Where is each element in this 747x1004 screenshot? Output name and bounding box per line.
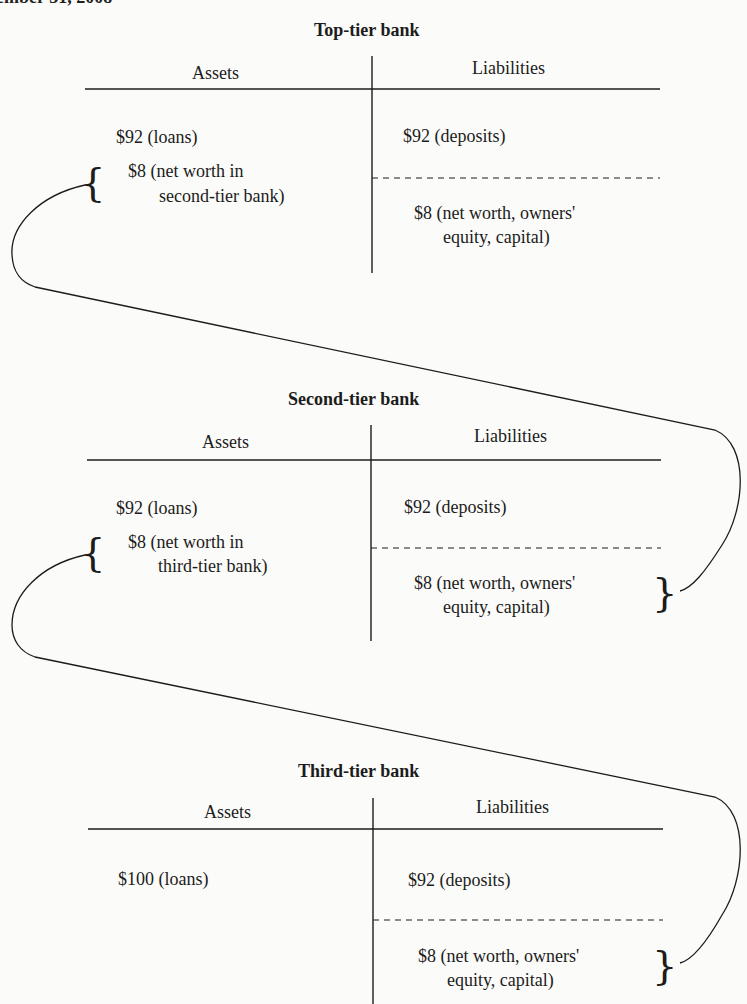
second-tier-asset-networth-line1: $8 (net worth in — [128, 531, 243, 554]
second-tier-asset-loans: $92 (loans) — [116, 497, 197, 520]
right-brace-icon: } — [652, 945, 677, 985]
second-tier-assets-header: Assets — [202, 432, 249, 453]
left-brace-icon: { — [80, 532, 105, 572]
top-tier-asset-networth-line1: $8 (net worth in — [128, 160, 243, 183]
top-tier-asset-networth-line2: second-tier bank) — [159, 185, 284, 208]
top-tier-liability-networth-line2: equity, capital) — [443, 226, 550, 249]
second-tier-title: Second-tier bank — [288, 389, 419, 410]
second-tier-liabilities-header: Liabilities — [474, 426, 547, 447]
second-tier-asset-networth-line2: third-tier bank) — [158, 555, 267, 578]
top-tier-liability-networth-line1: $8 (net worth, owners' — [414, 202, 575, 225]
second-tier-liability-networth-line1: $8 (net worth, owners' — [414, 572, 575, 595]
third-tier-liability-deposits: $92 (deposits) — [408, 869, 511, 892]
top-tier-title: Top-tier bank — [314, 20, 420, 41]
third-tier-assets-header: Assets — [204, 802, 251, 823]
top-tier-assets-header: Assets — [192, 63, 239, 84]
right-brace-icon: } — [652, 572, 677, 612]
left-brace-icon: { — [80, 162, 105, 202]
top-tier-asset-loans: $92 (loans) — [116, 126, 197, 149]
third-tier-liabilities-header: Liabilities — [476, 797, 549, 818]
second-tier-liability-networth-line2: equity, capital) — [443, 596, 550, 619]
top-tier-liabilities-header: Liabilities — [472, 58, 545, 79]
diagram-lines — [0, 0, 747, 1004]
third-tier-title: Third-tier bank — [298, 761, 419, 782]
third-tier-liability-networth-line1: $8 (net worth, owners' — [418, 945, 579, 968]
third-tier-liability-networth-line2: equity, capital) — [447, 969, 554, 992]
connector-second-to-third — [12, 555, 740, 963]
third-tier-asset-loans: $100 (loans) — [118, 868, 208, 891]
connector-top-to-second — [12, 185, 740, 591]
top-tier-liability-deposits: $92 (deposits) — [403, 125, 506, 148]
second-tier-liability-deposits: $92 (deposits) — [404, 496, 507, 519]
